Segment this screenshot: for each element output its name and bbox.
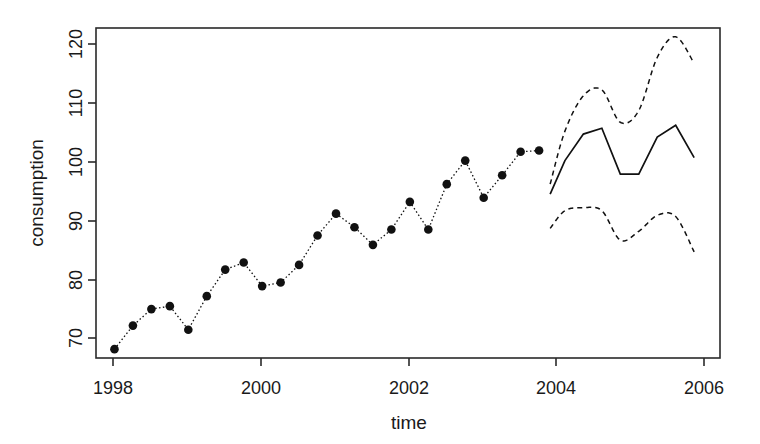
upper-prediction-interval-line (550, 37, 694, 184)
data-point (147, 305, 156, 314)
y-axis-ticks (88, 44, 96, 338)
data-point (239, 258, 248, 267)
x-tick-label-2002: 2002 (389, 378, 429, 398)
plot-frame (96, 28, 720, 358)
data-point (166, 302, 175, 311)
x-axis-title: time (391, 412, 427, 433)
data-point (387, 225, 396, 234)
plot-area (110, 37, 694, 354)
data-point (258, 282, 267, 291)
data-point (516, 147, 525, 156)
y-tick-label-90: 90 (66, 211, 86, 231)
data-point (424, 225, 433, 234)
data-point (350, 223, 359, 232)
y-tick-labels: 120 110 100 90 80 70 (66, 29, 86, 348)
data-point (498, 171, 507, 180)
consumption-forecast-chart: 120 110 100 90 80 70 consumption 1998 20… (0, 0, 760, 444)
data-point (461, 156, 470, 165)
x-tick-label-1998: 1998 (93, 378, 133, 398)
data-point (276, 278, 285, 287)
data-point (313, 231, 322, 240)
observed-series-points (110, 146, 543, 353)
y-tick-label-70: 70 (66, 328, 86, 348)
data-point (369, 241, 378, 250)
y-tick-label-110: 110 (66, 89, 86, 118)
data-point (221, 265, 230, 274)
y-tick-label-80: 80 (66, 270, 86, 290)
data-point (202, 292, 211, 301)
data-point (129, 321, 138, 330)
y-axis-title: consumption (26, 139, 47, 247)
x-axis-ticks (113, 358, 704, 366)
x-tick-label-2004: 2004 (536, 378, 576, 398)
data-point (110, 345, 119, 354)
data-point (295, 261, 304, 270)
lower-prediction-interval-line (550, 207, 694, 252)
y-tick-label-100: 100 (66, 147, 86, 177)
forecast-series-line (550, 125, 694, 194)
data-point (184, 325, 193, 334)
data-point (332, 209, 341, 218)
data-point (406, 198, 415, 207)
x-tick-label-2006: 2006 (684, 378, 724, 398)
data-point (479, 193, 488, 202)
observed-series-line (114, 151, 539, 350)
x-tick-label-2000: 2000 (241, 378, 281, 398)
x-tick-labels: 1998 2000 2002 2004 2006 (93, 378, 724, 398)
y-tick-label-120: 120 (66, 29, 86, 59)
data-point (442, 180, 451, 189)
data-point (535, 146, 544, 155)
